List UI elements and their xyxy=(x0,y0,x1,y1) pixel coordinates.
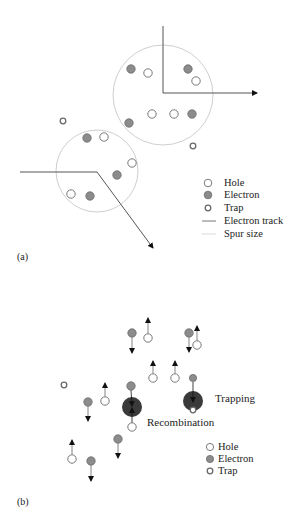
trap-icon xyxy=(61,382,67,388)
trapping-label: Trapping xyxy=(215,393,255,404)
electron-icon xyxy=(206,455,213,462)
electron-icon xyxy=(114,435,122,443)
electron-icon xyxy=(128,329,136,337)
legend-a-electron-label: Electron xyxy=(224,190,260,201)
electron-icon xyxy=(189,374,196,381)
electron-icon xyxy=(83,134,91,142)
hole-icon xyxy=(171,374,179,382)
spur-circle xyxy=(56,130,138,212)
panel-b-legend-icons xyxy=(206,443,213,473)
electron-icon xyxy=(113,171,121,179)
legend-b-hole-label: Hole xyxy=(218,442,238,453)
diagram-canvas xyxy=(0,0,301,513)
trap-icon xyxy=(190,143,196,149)
legend-a-spur-label: Spur size xyxy=(224,229,263,240)
electron-icon xyxy=(184,65,192,73)
hole-icon xyxy=(128,159,136,167)
hole-icon xyxy=(100,133,108,141)
panel-b-carrier-diagram xyxy=(61,318,203,481)
electron-icon xyxy=(86,192,94,200)
electron-icon xyxy=(204,191,212,199)
panel-a-spur-diagram xyxy=(20,26,257,248)
hole-icon xyxy=(206,443,213,450)
legend-a-trap-label: Trap xyxy=(224,203,243,214)
trap-icon xyxy=(205,205,211,211)
electron-icon xyxy=(185,329,193,337)
electron-icon xyxy=(188,110,196,118)
hole-icon xyxy=(204,179,212,187)
hole-icon xyxy=(144,69,152,77)
trap-icon xyxy=(60,118,66,124)
legend-b-electron-label: Electron xyxy=(218,454,254,465)
hole-icon xyxy=(144,334,152,342)
legend-b-trap-label: Trap xyxy=(218,466,237,477)
electron-track xyxy=(20,172,153,248)
hole-icon xyxy=(128,423,136,431)
hole-icon xyxy=(101,397,109,405)
legend-a-track-label: Electron track xyxy=(224,216,283,227)
electron-icon xyxy=(84,398,92,406)
electron-icon xyxy=(127,382,135,390)
hole-icon xyxy=(170,110,178,118)
recombination-label: Recombination xyxy=(147,417,214,428)
figure: Hole Electron Trap Electron track Spur s… xyxy=(0,0,301,513)
electron-icon xyxy=(127,65,135,73)
hole-icon xyxy=(68,455,76,463)
hole-icon xyxy=(149,374,157,382)
electron-icon xyxy=(125,119,133,127)
panel-a-label: (a) xyxy=(17,252,28,262)
hole-icon xyxy=(67,190,75,198)
hole-icon xyxy=(192,77,200,85)
hole-icon xyxy=(148,110,156,118)
trap-icon xyxy=(190,407,196,413)
legend-a-hole-label: Hole xyxy=(224,178,244,189)
panel-a-legend-icons xyxy=(202,179,216,234)
panel-b-label: (b) xyxy=(17,497,29,507)
hole-icon xyxy=(193,341,201,349)
electron-track xyxy=(163,26,257,93)
trap-icon xyxy=(207,468,213,474)
electron-icon xyxy=(87,457,95,465)
